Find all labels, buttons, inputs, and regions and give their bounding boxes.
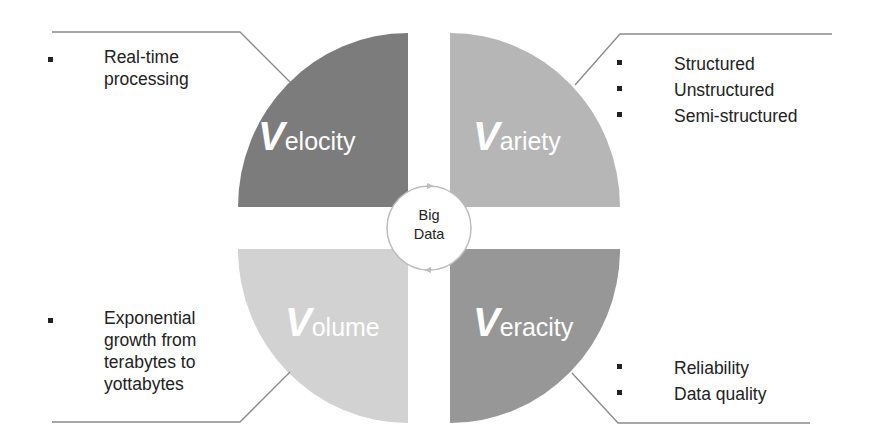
variety-rest: ariety [500, 127, 562, 155]
big-data-line1: Big [399, 206, 459, 225]
velocity-initial: V [258, 114, 288, 158]
big-data-line2: Data [399, 225, 459, 244]
veracity-bullet-1: Reliability [674, 355, 766, 381]
bullet-marker [617, 364, 622, 369]
big-data-label: Big Data [399, 206, 459, 244]
volume-initial: V [285, 300, 315, 344]
bullet-marker [48, 57, 53, 62]
variety-initial: V [473, 114, 503, 158]
volume-bullet-1: Exponential growth from terabytes to yot… [104, 307, 196, 395]
volume-rest: olume [312, 313, 380, 341]
veracity-bullet-2: Data quality [674, 381, 766, 407]
variety-bullet-3: Semi-structured [674, 103, 798, 129]
velocity-rest: elocity [285, 127, 356, 155]
bullet-line: yottabytes [104, 373, 196, 395]
variety-bullet-2: Unstructured [674, 77, 798, 103]
veracity-initial: V [473, 300, 503, 344]
bullet-line: processing [104, 68, 189, 90]
bullet-marker [617, 86, 622, 91]
velocity-bullet-1: Real-time processing [104, 46, 189, 90]
veracity-rest: eracity [500, 313, 574, 341]
variety-bullet-1: Structured [674, 51, 798, 77]
bullet-line: terabytes to [104, 351, 196, 373]
bullet-line: growth from [104, 329, 196, 351]
bullet-marker [617, 60, 622, 65]
bullet-marker [48, 318, 53, 323]
variety-bullets: Structured Unstructured Semi-structured [674, 51, 798, 129]
bullet-line: Real-time [104, 46, 189, 68]
veracity-bullets: Reliability Data quality [674, 355, 766, 407]
bullet-marker [617, 390, 622, 395]
bullet-marker [617, 112, 622, 117]
bullet-line: Exponential [104, 307, 196, 329]
